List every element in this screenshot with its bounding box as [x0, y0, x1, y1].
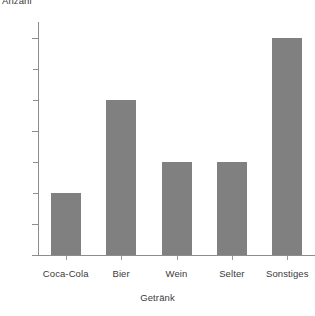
y-tick-label-wrap: 0	[0, 255, 38, 256]
x-tick	[66, 256, 67, 260]
x-tick	[121, 256, 122, 260]
bar	[51, 193, 81, 255]
y-tick-label-wrap: 4	[0, 131, 38, 132]
x-tick	[177, 256, 178, 260]
x-tick	[232, 256, 233, 260]
bar	[217, 162, 247, 255]
bar	[162, 162, 192, 255]
x-tick-label: Coca-Cola	[43, 268, 89, 279]
bar	[272, 38, 302, 255]
y-tick-label-wrap: 7	[0, 38, 38, 39]
bars-layer	[38, 22, 315, 255]
x-tick-label: Wein	[166, 268, 188, 279]
x-tick	[287, 256, 288, 260]
x-tick-label: Selter	[219, 268, 244, 279]
x-axis-title: Getränk	[0, 292, 315, 303]
y-tick-label-wrap: 1	[0, 224, 38, 225]
bar	[106, 100, 136, 255]
bar-chart: Anzahl 0147 Coca-ColaBierWeinSelterSonst…	[0, 0, 315, 316]
x-tick-label: Bier	[112, 268, 129, 279]
y-axis-title: Anzahl	[2, 0, 32, 6]
x-tick-label: Sonstiges	[266, 268, 309, 279]
